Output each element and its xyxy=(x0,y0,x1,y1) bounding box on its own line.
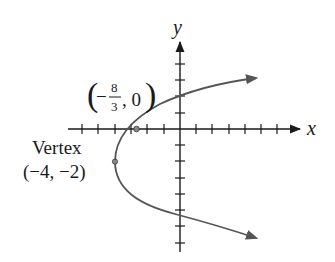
x-intercept-point xyxy=(134,126,140,132)
fraction-numerator: 8 xyxy=(111,80,118,95)
svg-text:−: − xyxy=(96,86,107,107)
parabola-graph: y x ( − 8 3 , 0 ) Vertex (−4, −2) xyxy=(0,0,335,262)
svg-text:): ) xyxy=(145,76,156,114)
y-axis-label: y xyxy=(171,16,182,39)
vertex-label-title: Vertex xyxy=(32,137,82,158)
x-intercept-label: ( − 8 3 , 0 ) xyxy=(87,76,156,114)
svg-text:, 0: , 0 xyxy=(122,89,141,110)
vertex-label-coords: (−4, −2) xyxy=(23,161,86,183)
x-axis-label: x xyxy=(306,117,316,139)
parabola-curve-lower xyxy=(115,162,256,238)
vertex-point xyxy=(112,159,117,164)
fraction-denominator: 3 xyxy=(111,99,118,114)
